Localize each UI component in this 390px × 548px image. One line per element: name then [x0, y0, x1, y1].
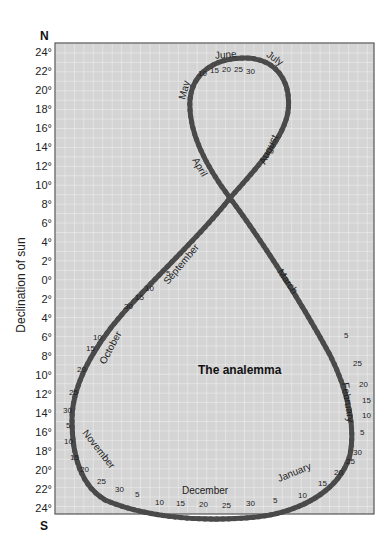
svg-text:15: 15 [135, 293, 144, 302]
svg-text:25: 25 [353, 359, 362, 368]
svg-text:25: 25 [346, 457, 355, 466]
svg-text:30: 30 [115, 485, 124, 494]
y-ticks-south: 2° 4° 6° 8° 10° 12° 14° 16° 18° 20° 22° … [35, 293, 52, 514]
svg-text:5: 5 [273, 496, 278, 505]
svg-text:15: 15 [86, 344, 95, 353]
svg-text:15: 15 [176, 499, 185, 508]
svg-text:20°: 20° [35, 84, 52, 96]
svg-text:5: 5 [135, 490, 140, 499]
svg-text:20: 20 [199, 500, 208, 509]
svg-text:8°: 8° [41, 350, 52, 362]
svg-text:10: 10 [362, 411, 371, 420]
svg-text:25: 25 [97, 477, 106, 486]
svg-text:18°: 18° [35, 445, 52, 457]
svg-text:15: 15 [318, 479, 327, 488]
svg-text:10: 10 [298, 491, 307, 500]
figure-title: The analemma [198, 363, 282, 377]
south-label: S [40, 519, 48, 533]
analemma-figure: N S Declination of sun 24° 22° 20° 18° 1… [0, 0, 390, 548]
svg-text:14°: 14° [35, 407, 52, 419]
svg-text:4°: 4° [41, 236, 52, 248]
svg-text:30: 30 [246, 499, 255, 508]
svg-text:30: 30 [63, 406, 72, 415]
y-axis-label: Declination of sun [14, 237, 28, 332]
svg-text:15: 15 [70, 453, 79, 462]
svg-text:8°: 8° [41, 198, 52, 210]
svg-text:5: 5 [166, 269, 171, 278]
svg-text:20: 20 [222, 65, 231, 74]
plot-area [55, 43, 374, 514]
svg-text:10: 10 [198, 69, 207, 78]
svg-text:10°: 10° [35, 179, 52, 191]
north-label: N [40, 29, 49, 43]
svg-text:24°: 24° [35, 502, 52, 514]
svg-text:25: 25 [234, 65, 243, 74]
svg-text:20: 20 [80, 465, 89, 474]
svg-text:2°: 2° [41, 255, 52, 267]
svg-text:25: 25 [69, 388, 78, 397]
svg-text:10: 10 [93, 333, 102, 342]
svg-text:24°: 24° [35, 46, 52, 58]
svg-text:5: 5 [66, 421, 71, 430]
svg-text:12°: 12° [35, 160, 52, 172]
svg-text:15: 15 [362, 396, 371, 405]
svg-text:18°: 18° [35, 103, 52, 115]
svg-text:20: 20 [77, 365, 86, 374]
svg-text:16°: 16° [35, 122, 52, 134]
svg-text:5: 5 [344, 331, 349, 340]
svg-text:25: 25 [222, 501, 231, 510]
svg-text:2°: 2° [41, 293, 52, 305]
svg-text:5: 5 [360, 428, 365, 437]
y-ticks-north: 24° 22° 20° 18° 16° 14° 12° 10° 8° 6° 4°… [35, 46, 52, 286]
month-december: December [182, 485, 229, 496]
svg-text:20°: 20° [35, 464, 52, 476]
svg-text:22°: 22° [35, 483, 52, 495]
svg-text:15: 15 [210, 66, 219, 75]
svg-text:10: 10 [145, 284, 154, 293]
svg-text:20: 20 [359, 380, 368, 389]
svg-text:20: 20 [334, 468, 343, 477]
svg-text:16°: 16° [35, 426, 52, 438]
svg-text:10: 10 [64, 437, 73, 446]
svg-text:22°: 22° [35, 65, 52, 77]
svg-text:12°: 12° [35, 388, 52, 400]
svg-text:14°: 14° [35, 141, 52, 153]
svg-text:30: 30 [124, 302, 133, 311]
svg-text:10°: 10° [35, 369, 52, 381]
svg-text:30: 30 [246, 67, 255, 76]
svg-text:6°: 6° [41, 217, 52, 229]
svg-text:4°: 4° [41, 312, 52, 324]
svg-text:0°: 0° [41, 274, 52, 286]
svg-text:30: 30 [353, 448, 362, 457]
svg-text:6°: 6° [41, 331, 52, 343]
svg-text:10: 10 [155, 498, 164, 507]
month-june: June [215, 48, 238, 61]
